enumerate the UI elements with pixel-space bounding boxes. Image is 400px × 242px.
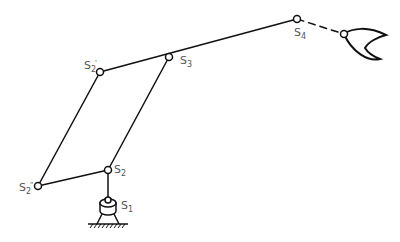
link-s2pp-s2p [38, 72, 100, 186]
link-s2-s2pp [38, 170, 108, 186]
linkage-diagram: S2' S3 S4 S2" S2 S1 [0, 0, 400, 242]
label-s2-main: S [114, 163, 121, 176]
label-s2-sub: 2 [121, 169, 126, 178]
label-s2pp: S2" [19, 182, 33, 196]
link-s2p-s4 [100, 19, 297, 72]
joint-s2-icon [105, 167, 112, 174]
label-s2p-main: S [84, 59, 91, 72]
label-s2p-prime: ' [95, 59, 97, 67]
joint-s2p-icon [97, 69, 104, 76]
label-s2: S2 [114, 164, 126, 178]
label-s1: S1 [121, 200, 133, 214]
label-s2p: S2' [84, 60, 97, 74]
label-s2pp-prime: " [30, 181, 33, 189]
label-s1-main: S [121, 199, 128, 212]
label-s3-sub: 3 [187, 60, 192, 69]
joint-s3-icon [166, 54, 173, 61]
link-s2-s3 [108, 57, 169, 170]
gripper-icon [344, 29, 386, 60]
joint-gripper-icon [341, 31, 348, 38]
label-s3: S3 [180, 55, 192, 69]
linkage-drawing [0, 0, 400, 242]
label-s4-sub: 4 [301, 32, 306, 41]
label-s2pp-main: S [19, 181, 26, 194]
label-s3-main: S [180, 54, 187, 67]
label-s1-sub: 1 [128, 205, 133, 214]
joint-s4-icon [294, 16, 301, 23]
joint-s2pp-icon [35, 183, 42, 190]
label-s4: S4 [294, 27, 306, 41]
label-s4-main: S [294, 26, 301, 39]
